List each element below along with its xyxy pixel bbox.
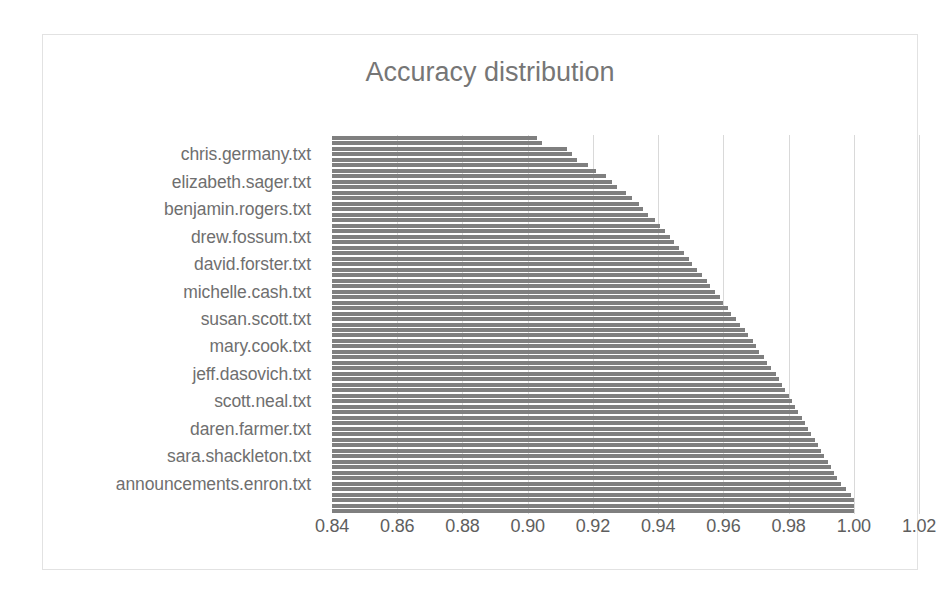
bar: [332, 449, 821, 453]
y-axis-label: announcements.enron.txt: [116, 473, 311, 494]
x-axis-tick-label: 0.86: [380, 516, 414, 537]
x-axis-tick-label: 0.96: [706, 516, 740, 537]
bar: [332, 152, 572, 156]
x-axis-tick-label: 0.94: [641, 516, 675, 537]
x-axis-tick-label: 0.90: [511, 516, 545, 537]
bar: [332, 355, 764, 359]
bar: [332, 251, 684, 255]
bar: [332, 509, 854, 513]
bar: [332, 432, 811, 436]
bar: [332, 185, 617, 189]
bar: [332, 317, 736, 321]
bar: [332, 394, 789, 398]
bar: [332, 498, 854, 502]
bar: [332, 136, 537, 140]
bar: [332, 361, 767, 365]
chart-title: Accuracy distribution: [365, 57, 614, 87]
bar: [332, 273, 702, 277]
bar: [332, 344, 756, 348]
bar: [332, 180, 612, 184]
bar: [332, 312, 731, 316]
y-axis-label: jeff.dasovich.txt: [192, 363, 311, 384]
bar: [332, 295, 720, 299]
bar: [332, 328, 745, 332]
bar: [332, 279, 707, 283]
bar: [332, 471, 834, 475]
bar: [332, 323, 740, 327]
bar: [332, 191, 626, 195]
plot-area: [332, 135, 919, 514]
bar: [332, 213, 648, 217]
bar: [332, 196, 632, 200]
x-axis-tick-label: 0.84: [315, 516, 349, 537]
y-axis-label: daren.farmer.txt: [190, 418, 311, 439]
bar: [332, 284, 710, 288]
bar: [332, 224, 660, 228]
bar: [332, 438, 815, 442]
y-axis-label: elizabeth.sager.txt: [172, 171, 311, 192]
gridline: [919, 135, 920, 514]
bar: [332, 460, 828, 464]
bar: [332, 257, 689, 261]
bar: [332, 306, 728, 310]
bar: [332, 377, 779, 381]
chart-frame: Accuracy distribution chris.germany.txte…: [42, 34, 918, 570]
y-axis-label: david.forster.txt: [194, 254, 311, 275]
y-axis-label: mary.cook.txt: [210, 336, 311, 357]
bar: [332, 268, 697, 272]
bar: [332, 504, 854, 508]
y-axis-label: sara.shackleton.txt: [167, 446, 311, 467]
bar-series: [332, 135, 919, 514]
y-axis-labels: chris.germany.txtelizabeth.sager.txtbenj…: [43, 135, 311, 514]
x-axis-tick-label: 0.88: [445, 516, 479, 537]
bar: [332, 465, 831, 469]
bar: [332, 301, 723, 305]
bar: [332, 235, 670, 239]
bar: [332, 383, 782, 387]
bar: [332, 158, 577, 162]
y-axis-label: michelle.cash.txt: [183, 281, 311, 302]
y-axis-label: susan.scott.txt: [201, 309, 311, 330]
bar: [332, 427, 808, 431]
x-axis-tick-label: 1.00: [837, 516, 871, 537]
bar: [332, 169, 596, 173]
bar: [332, 416, 802, 420]
bar: [332, 246, 679, 250]
bar: [332, 141, 542, 145]
x-axis-labels: 0.840.860.880.900.920.940.960.981.001.02: [332, 516, 919, 550]
x-axis-tick-label: 1.02: [902, 516, 936, 537]
bar: [332, 443, 818, 447]
y-axis-label: chris.germany.txt: [181, 144, 311, 165]
bar: [332, 388, 785, 392]
bar: [332, 476, 837, 480]
bar: [332, 482, 841, 486]
bar: [332, 366, 771, 370]
bar: [332, 350, 759, 354]
y-axis-label: scott.neal.txt: [214, 391, 311, 412]
bar: [332, 405, 795, 409]
bar: [332, 399, 792, 403]
bar: [332, 174, 606, 178]
x-axis-tick-label: 0.92: [576, 516, 610, 537]
bar: [332, 339, 753, 343]
bar: [332, 290, 715, 294]
bar: [332, 421, 805, 425]
bar: [332, 240, 674, 244]
bar: [332, 410, 798, 414]
bar: [332, 163, 588, 167]
x-axis-tick-label: 0.98: [771, 516, 805, 537]
bar: [332, 147, 567, 151]
y-axis-label: benjamin.rogers.txt: [164, 199, 311, 220]
bar: [332, 218, 655, 222]
bar: [332, 487, 846, 491]
bar: [332, 372, 776, 376]
bar: [332, 262, 692, 266]
bar: [332, 493, 851, 497]
bar: [332, 202, 639, 206]
chart-title-container: Accuracy distribution: [43, 57, 937, 88]
bar: [332, 454, 824, 458]
bar: [332, 207, 643, 211]
bar: [332, 333, 748, 337]
bar: [332, 229, 665, 233]
y-axis-label: drew.fossum.txt: [191, 226, 311, 247]
